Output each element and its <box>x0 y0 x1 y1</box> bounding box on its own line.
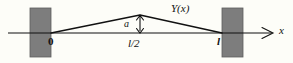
string-deflection-figure: 0 l l/2 a Y(x) x <box>0 0 293 63</box>
length-label: l <box>217 36 220 47</box>
origin-label: 0 <box>48 36 54 47</box>
deflection-curve-label: Y(x) <box>171 3 189 14</box>
half-length-label: l/2 <box>128 38 140 49</box>
x-axis-label: x <box>279 25 284 36</box>
figure-canvas <box>0 0 293 63</box>
amplitude-label: a <box>124 19 129 29</box>
deflection-curve <box>51 15 222 33</box>
